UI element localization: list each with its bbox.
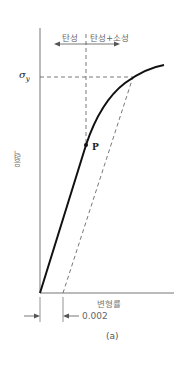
stress-strain-curve: [40, 65, 164, 293]
region-elastic-label: 탄성: [62, 31, 78, 43]
offset-value-label: 0.002: [82, 311, 108, 321]
figure-caption: (a): [106, 331, 119, 341]
region-elastic-plastic-label: 탄성+소성: [90, 31, 129, 43]
offset-arrowhead-right: [63, 314, 69, 319]
y-axis-label: 응력: [12, 151, 23, 167]
offset-arrowhead-left: [34, 314, 40, 319]
point-p-label: P: [92, 142, 99, 152]
yield-stress-label: σy: [19, 69, 30, 83]
point-p-marker: [84, 143, 88, 147]
elastic-arrowhead: [54, 42, 60, 47]
x-axis-label: 변형률: [97, 297, 121, 309]
